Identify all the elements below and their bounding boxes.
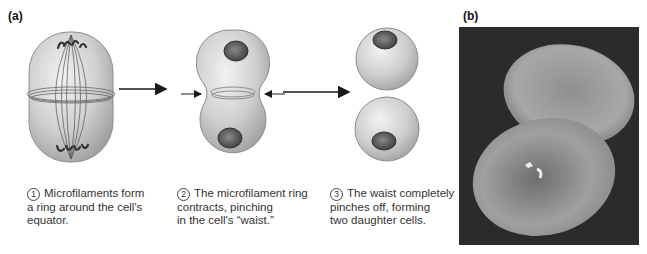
step-number-badge: 1	[27, 188, 40, 201]
step-number-badge: 3	[330, 188, 343, 201]
stage3-daughter-cells	[355, 28, 419, 161]
nucleus	[218, 128, 242, 148]
step-number-badge: 2	[177, 188, 190, 201]
nucleus	[373, 31, 397, 49]
nucleus	[372, 132, 396, 150]
stage1-cell	[27, 32, 115, 162]
stage2-cell	[196, 30, 269, 153]
step-3-caption: 3The waist completely pinches off, formi…	[330, 174, 454, 227]
nucleus	[224, 41, 248, 61]
sem-micrograph	[459, 27, 639, 245]
step-1-caption: 1Microfilaments form a ring around the c…	[27, 174, 144, 227]
step-2-caption: 2The microfilament ring contracts, pinch…	[177, 174, 308, 227]
